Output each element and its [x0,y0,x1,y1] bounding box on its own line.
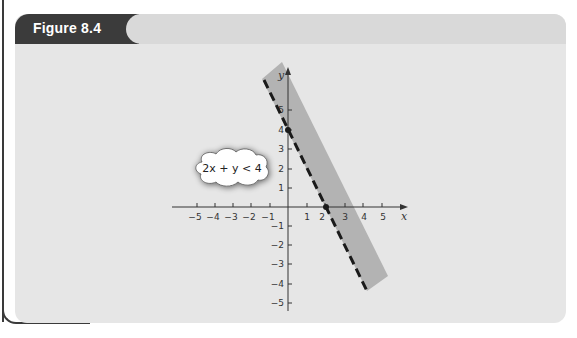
y-intercept-point [285,127,291,133]
svg-text:3: 3 [342,212,348,222]
x-axis-label: x [401,210,408,223]
shaded-region [262,62,388,291]
svg-text:4: 4 [361,212,367,222]
svg-text:3: 3 [278,144,284,154]
svg-text:−2: −2 [271,240,284,250]
svg-text:−5: −5 [271,298,284,308]
svg-text:4: 4 [278,125,284,135]
svg-text:−1: −1 [271,221,284,231]
svg-text:−2: −2 [242,212,255,222]
svg-text:5: 5 [380,212,386,222]
y-axis-label: y [277,69,285,82]
x-intercept-point [323,204,329,210]
svg-text:−4: −4 [271,279,285,289]
svg-text:2: 2 [319,212,325,222]
svg-text:−4: −4 [206,212,220,222]
x-ticks [197,203,382,207]
svg-text:1: 1 [278,183,284,193]
svg-text:1: 1 [304,212,310,222]
svg-text:2: 2 [278,164,284,174]
svg-text:−5: −5 [188,212,201,222]
inequality-graph: −5 −4 −3 −2 −1 1 2 3 4 5 x 5 4 3 2 1 −1 … [0,0,577,338]
svg-text:−3: −3 [271,259,284,269]
svg-text:−3: −3 [224,212,237,222]
callout-text: 2x + y < 4 [202,162,261,175]
